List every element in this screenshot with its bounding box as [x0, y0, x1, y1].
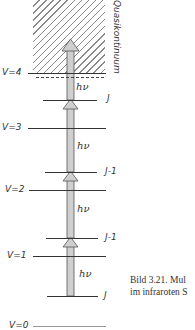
- figure-caption-line-2: im infraroten S: [130, 287, 188, 297]
- rot-level-line-j-minus-1-lower: [46, 238, 98, 239]
- rot-label-j-minus-1-lower: J-1: [105, 232, 117, 242]
- level-line-v0: [33, 326, 106, 327]
- level-label-v1: V=1: [7, 250, 26, 260]
- level-line-v2: [29, 190, 106, 191]
- rot-level-line-j-lower: [47, 296, 98, 297]
- level-label-v4: V=4: [2, 67, 21, 77]
- level-label-v2: V=2: [5, 184, 24, 194]
- photon-label-3: hν: [77, 140, 90, 151]
- level-label-v0: V=0: [9, 320, 28, 330]
- level-line-v3: [28, 128, 106, 129]
- rot-label-j-lower: J: [104, 290, 107, 300]
- photon-label-4: hν: [76, 81, 89, 92]
- dashed-line-continuum-edge: [36, 77, 104, 78]
- level-line-v4: [28, 73, 106, 74]
- rot-label-j-upper: J: [107, 93, 110, 103]
- rot-level-line-j-minus-1-upper: [45, 172, 97, 173]
- level-label-v3: V=3: [2, 122, 21, 132]
- photon-label-2: hν: [77, 203, 90, 214]
- photon-label-1: hν: [79, 268, 92, 279]
- level-line-v1: [33, 256, 106, 257]
- figure-caption-line-1: Bild 3.21. Mul: [130, 275, 186, 285]
- rot-label-j-minus-1-upper: J-1: [105, 166, 117, 176]
- rot-level-line-j-upper: [43, 100, 97, 101]
